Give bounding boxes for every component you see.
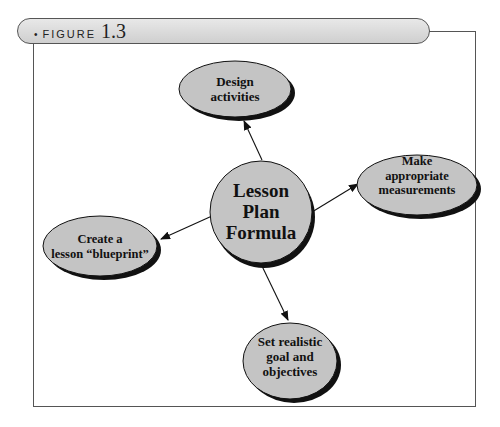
- concept-diagram: Designactivities Makeappropriatemeasurem…: [0, 0, 500, 427]
- node-measure: Makeappropriatemeasurements: [357, 154, 481, 219]
- node-design: Designactivities: [179, 61, 295, 121]
- svg-text:Designactivities: Designactivities: [210, 74, 259, 104]
- arrow-to-measure: [312, 184, 358, 212]
- arrow-to-design: [244, 121, 262, 160]
- node-blueprint: Create alesson “blueprint”: [43, 216, 161, 280]
- node-center: LessonPlanFormula: [210, 161, 315, 268]
- arrow-to-goal: [261, 264, 288, 320]
- svg-text:Set realisticgoal andobjective: Set realisticgoal andobjectives: [258, 334, 323, 379]
- arrow-to-blueprint: [161, 216, 212, 239]
- node-goal: Set realisticgoal andobjectives: [243, 323, 341, 403]
